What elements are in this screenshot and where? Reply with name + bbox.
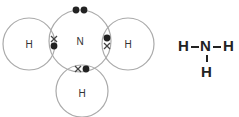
- hydrogen-left-label: H: [25, 39, 32, 50]
- bond-pair-right: [104, 35, 111, 49]
- electron-dot-icon: [104, 35, 111, 42]
- electron-dot-icon: [73, 7, 80, 14]
- hydrogen-bottom-label: H: [78, 88, 85, 99]
- formula-h-left: H: [178, 38, 189, 53]
- bond-line-down: [206, 55, 208, 62]
- formula-h-bottom: H: [201, 64, 212, 79]
- electron-dot-icon: [83, 66, 90, 73]
- bond-line-left: [191, 46, 199, 48]
- formula-h-right: H: [223, 38, 234, 53]
- hydrogen-right-label: H: [124, 39, 131, 50]
- structural-formula: H N H H: [178, 37, 236, 87]
- formula-n: N: [200, 38, 211, 53]
- bond-line-right: [213, 46, 221, 48]
- electron-dot-icon: [81, 7, 88, 14]
- electron-dot-icon: [51, 43, 58, 50]
- electron-cross-icon: [75, 66, 81, 72]
- electron-cross-icon: [104, 43, 110, 49]
- nitrogen-label: N: [76, 36, 83, 47]
